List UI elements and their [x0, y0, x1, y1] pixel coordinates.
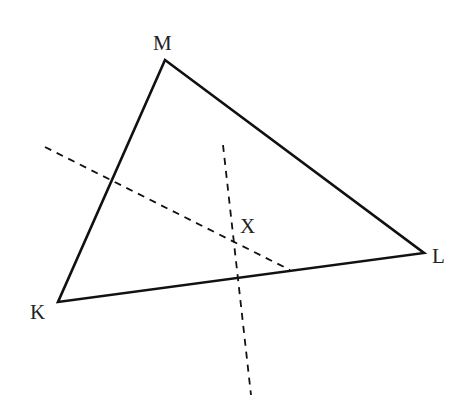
vertex-label-L: L	[432, 244, 445, 268]
triangle-KLM	[58, 60, 424, 302]
point-label-X: X	[240, 214, 255, 238]
diagram-canvas: M K L X	[0, 0, 468, 413]
dashed-line-bisector-KL	[223, 145, 251, 395]
dashed-line-bisector-KM	[45, 147, 290, 270]
vertex-label-M: M	[153, 31, 172, 55]
vertex-label-K: K	[30, 300, 45, 324]
